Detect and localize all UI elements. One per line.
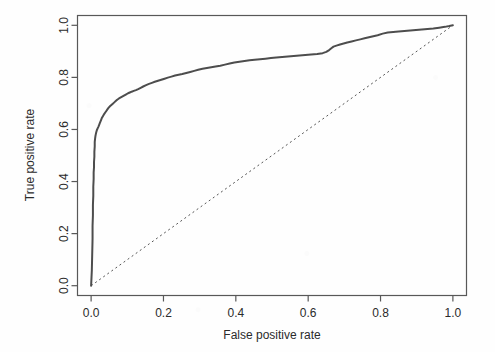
x-tick-label: 0.2 bbox=[155, 306, 172, 320]
x-tick-label: 1.0 bbox=[445, 306, 462, 320]
y-axis-title: True positive rate bbox=[23, 109, 37, 202]
x-axis-title: False positive rate bbox=[223, 328, 321, 342]
x-axis-tick-labels: 0.00.20.40.60.81.0 bbox=[83, 306, 462, 320]
roc-curve-figure: 0.00.20.40.60.81.0 0.00.20.40.60.81.0 Fa… bbox=[0, 0, 495, 352]
x-tick-label: 0.8 bbox=[372, 306, 389, 320]
x-tick-label: 0.0 bbox=[83, 306, 100, 320]
y-axis-ticks bbox=[72, 25, 78, 285]
y-tick-label: 0.0 bbox=[58, 277, 72, 294]
chance-diagonal-line bbox=[91, 25, 453, 285]
x-axis-ticks bbox=[91, 296, 453, 302]
y-tick-label: 1.0 bbox=[58, 17, 72, 34]
y-tick-label: 0.8 bbox=[58, 69, 72, 86]
y-axis-tick-labels: 0.00.20.40.60.81.0 bbox=[58, 17, 72, 294]
y-tick-label: 0.2 bbox=[58, 225, 72, 242]
x-tick-label: 0.4 bbox=[227, 306, 244, 320]
y-tick-label: 0.4 bbox=[58, 173, 72, 190]
x-tick-label: 0.6 bbox=[300, 306, 317, 320]
y-tick-label: 0.6 bbox=[58, 121, 72, 138]
roc-plot-svg: 0.00.20.40.60.81.0 0.00.20.40.60.81.0 Fa… bbox=[0, 0, 495, 352]
